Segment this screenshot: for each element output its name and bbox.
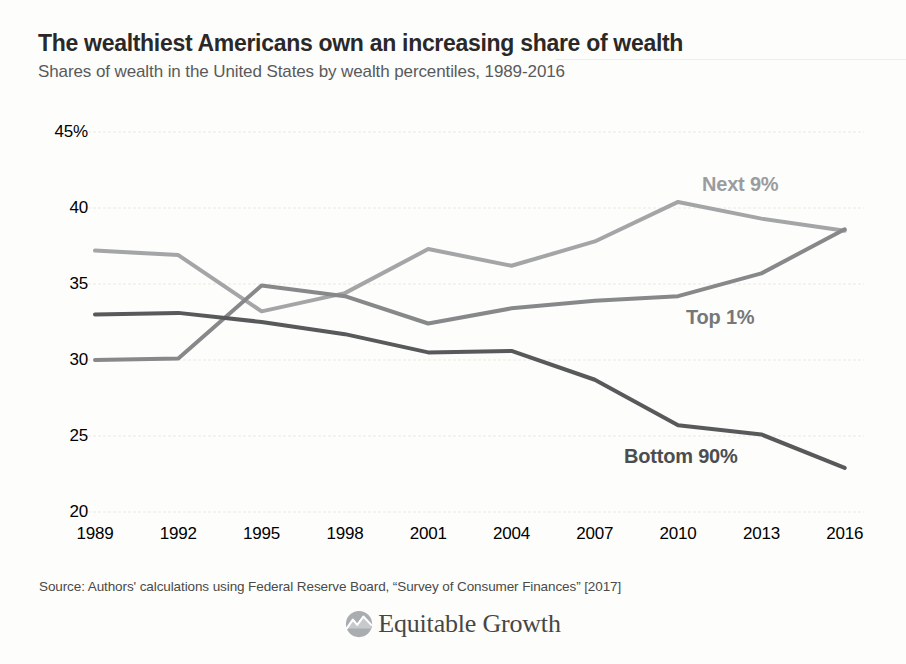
x-tick-label: 2010 [643,524,713,544]
x-tick-label: 1989 [60,524,130,544]
equitable-growth-logo: Equitable Growth [0,606,906,642]
x-tick-label: 2016 [810,524,880,544]
series-label-bottom-90pct: Bottom 90% [624,445,738,468]
mountain-line-chart-icon [345,610,373,638]
line-next9 [95,202,845,311]
series-label-next-9pct: Next 9% [702,173,778,196]
series-label-top-1pct: Top 1% [686,306,754,329]
x-tick-label: 1995 [227,524,297,544]
chart-canvas [0,0,906,560]
source-note: Source: Authors' calculations using Fede… [39,579,879,594]
line-top1 [95,229,845,360]
y-tick-label: 35 [34,274,88,294]
x-tick-label: 2007 [560,524,630,544]
logo-wordmark: Equitable Growth [378,609,560,639]
x-tick-label: 2004 [477,524,547,544]
x-tick-label: 2013 [726,524,796,544]
x-tick-label: 2001 [393,524,463,544]
y-tick-label: 20 [34,502,88,522]
y-tick-label: 40 [34,198,88,218]
x-tick-label: 1992 [143,524,213,544]
x-tick-label: 1998 [310,524,380,544]
line-chart: 45%4035302520 19891992199519982001200420… [0,0,906,560]
chart-page: The wealthiest Americans own an increasi… [0,0,906,664]
y-tick-label: 45% [34,122,88,142]
y-tick-label: 30 [34,350,88,370]
y-tick-label: 25 [34,426,88,446]
